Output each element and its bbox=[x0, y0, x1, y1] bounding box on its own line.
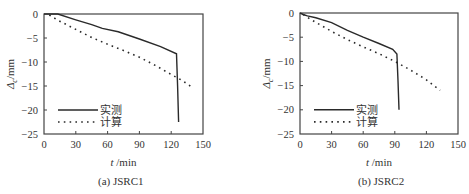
y-tick-label: −5 bbox=[283, 32, 294, 43]
x-tick-label: 150 bbox=[195, 139, 211, 150]
plot-frame-a bbox=[44, 14, 203, 134]
series-line-calculated bbox=[303, 15, 440, 91]
line-chart-b: 03060901201500−5−10−15−20−25t /minΔc/mm实… bbox=[235, 0, 469, 194]
x-tick-label: 30 bbox=[326, 139, 337, 150]
x-tick-label: 0 bbox=[297, 139, 302, 150]
x-tick-label: 30 bbox=[71, 139, 82, 150]
legend-label-measured: 实测 bbox=[356, 103, 378, 117]
y-tick-label: −20 bbox=[22, 105, 38, 116]
y-tick-label: −15 bbox=[278, 80, 294, 91]
chart-panel-b: 03060901201500−5−10−15−20−25t /minΔc/mm实… bbox=[235, 0, 469, 194]
legend-label-measured: 实测 bbox=[100, 103, 122, 117]
x-tick-label: 0 bbox=[41, 139, 46, 150]
x-tick-label: 90 bbox=[134, 139, 145, 150]
y-axis-label: Δc/mm bbox=[260, 58, 275, 90]
y-tick-label: −25 bbox=[22, 129, 38, 140]
y-tick-label: 0 bbox=[33, 9, 38, 20]
x-tick-label: 90 bbox=[390, 139, 401, 150]
chart-caption-a: (a) JSRC1 bbox=[98, 175, 144, 187]
y-tick-label: −25 bbox=[278, 129, 294, 140]
x-tick-label: 60 bbox=[358, 139, 369, 150]
x-axis-label: t /min bbox=[366, 156, 392, 168]
y-tick-label: −20 bbox=[278, 104, 294, 115]
line-chart-a: 03060901201500−5−10−15−20−25t /minΔc/mm实… bbox=[0, 0, 234, 194]
x-tick-label: 60 bbox=[102, 139, 113, 150]
chart-panel-a: 03060901201500−5−10−15−20−25t /minΔc/mm实… bbox=[0, 0, 234, 194]
x-axis-label: t /min bbox=[111, 156, 137, 168]
y-tick-label: −15 bbox=[22, 81, 38, 92]
legend-label-calculated: 计算 bbox=[100, 115, 122, 129]
y-tick-label: −5 bbox=[27, 33, 38, 44]
y-tick-label: 0 bbox=[289, 8, 294, 19]
y-tick-label: −10 bbox=[22, 57, 38, 68]
y-tick-label: −10 bbox=[278, 56, 294, 67]
series-line-measured bbox=[300, 13, 399, 110]
x-tick-label: 120 bbox=[163, 139, 179, 150]
x-tick-label: 150 bbox=[450, 139, 466, 150]
legend-label-calculated: 计算 bbox=[356, 115, 378, 129]
plot-frame-b bbox=[300, 13, 458, 134]
y-axis-label: Δc/mm bbox=[4, 58, 19, 90]
x-tick-label: 120 bbox=[419, 139, 435, 150]
chart-caption-b: (b) JSRC2 bbox=[358, 175, 404, 187]
